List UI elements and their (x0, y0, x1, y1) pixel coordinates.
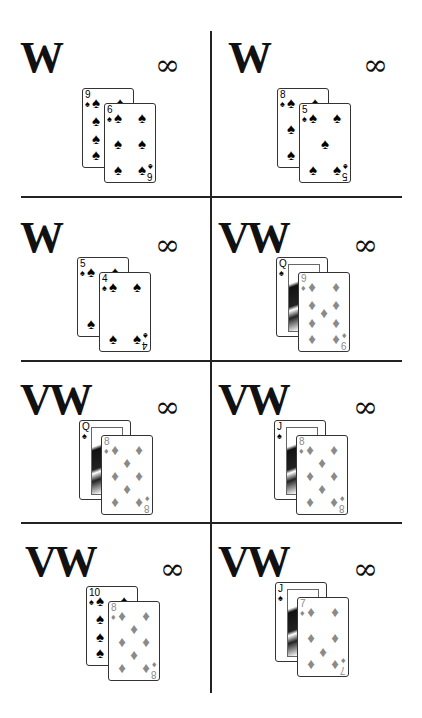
card-rank-bottom: 9 (341, 340, 347, 350)
card-rank-bottom: 4 (142, 340, 148, 350)
diamond-pip-icon: ♦ (320, 306, 328, 321)
vertical-divider (210, 31, 212, 693)
diamond-pip-icon: ♦ (142, 635, 150, 650)
spade-pip-icon: ♠ (138, 137, 146, 152)
infinity-icon: ∞ (353, 230, 378, 260)
infinity-icon: ∞ (353, 554, 378, 584)
diamond-pip-icon: ♦ (308, 316, 316, 331)
diamond-pip-icon: ♦ (332, 332, 340, 347)
hand-label: W (20, 36, 61, 80)
spade-icon: ♠ (148, 162, 153, 171)
spade-pip-icon: ♠ (287, 122, 295, 137)
hand-label: W (228, 36, 269, 80)
spade-icon: ♠ (278, 594, 283, 603)
hand-label: W (20, 216, 61, 260)
playing-card-front: ♦♦♦♦♦♦♦ 7 ♦ 7 ♦ (297, 597, 349, 677)
spade-pip-icon: ♠ (96, 646, 104, 661)
card-pair: ♠♠♠♠♠♠♠♠♠ 9 ♠ 9 ♠ ♠♠♠♠♠♠ 6 ♠ 6 ♠ (82, 88, 156, 183)
playing-card-front: ♦♦♦♦♦♦♦♦ 8 ♦ 8 ♦ (101, 435, 153, 515)
hand-label: VW (218, 378, 288, 422)
diamond-icon: ♦ (342, 331, 347, 340)
diamond-pip-icon: ♦ (308, 298, 316, 313)
diamond-pip-icon: ♦ (307, 631, 315, 646)
hand-label: VW (20, 378, 90, 422)
spade-pip-icon: ♠ (287, 148, 295, 163)
diamond-icon: ♦ (145, 494, 150, 503)
diamond-icon: ♦ (152, 660, 157, 669)
spade-icon: ♠ (143, 331, 148, 340)
diamond-pip-icon: ♦ (135, 495, 143, 510)
spade-icon: ♠ (107, 115, 112, 124)
spade-pip-icon: ♠ (114, 163, 122, 178)
spade-pip-icon: ♠ (333, 163, 341, 178)
hand-label: VW (25, 540, 95, 584)
card-rank-bottom: 6 (147, 171, 153, 181)
infinity-icon: ∞ (155, 392, 180, 422)
spade-icon: ♠ (89, 598, 94, 607)
diamond-pip-icon: ♦ (123, 482, 131, 497)
diamond-icon: ♦ (104, 447, 109, 456)
spade-pip-icon: ♠ (96, 630, 104, 645)
card-pair: Q ♠ Q ♠ ♦♦♦♦♦♦♦♦ 8 ♦ 8 ♦ (79, 420, 153, 515)
infinity-icon: ∞ (160, 554, 185, 584)
spade-pip-icon: ♠ (92, 132, 100, 147)
diamond-pip-icon: ♦ (332, 298, 340, 313)
diamond-pip-icon: ♦ (135, 469, 143, 484)
diamond-pip-icon: ♦ (306, 495, 314, 510)
diamond-pip-icon: ♦ (331, 605, 339, 620)
playing-card-front: ♠♠♠♠ 4 ♠ 4 ♠ (99, 272, 151, 352)
playing-card-front: ♠♠♠♠♠♠ 6 ♠ 6 ♠ (104, 103, 156, 183)
spade-pip-icon: ♠ (114, 137, 122, 152)
spade-icon: ♠ (302, 115, 307, 124)
diamond-pip-icon: ♦ (307, 657, 315, 672)
diamond-pip-icon: ♦ (111, 443, 119, 458)
spade-icon: ♠ (279, 269, 284, 278)
infinity-icon: ∞ (155, 230, 180, 260)
diamond-icon: ♦ (300, 609, 305, 618)
diamond-pip-icon: ♦ (123, 456, 131, 471)
horizontal-divider (21, 522, 402, 524)
diamond-pip-icon: ♦ (330, 443, 338, 458)
spade-icon: ♠ (82, 432, 87, 441)
playing-card-front: ♠♠♠♠♠ 5 ♠ 5 ♠ (299, 103, 351, 183)
card-rank-bottom: 8 (144, 503, 150, 513)
card-pair: ♠♠♠♠♠ 5 ♠ 5 ♠ ♠♠♠♠ 4 ♠ 4 ♠ (77, 257, 151, 352)
spade-pip-icon: ♠ (309, 111, 317, 126)
diamond-icon: ♦ (301, 284, 306, 293)
diamond-pip-icon: ♦ (130, 622, 138, 637)
diamond-pip-icon: ♦ (111, 469, 119, 484)
diamond-pip-icon: ♦ (142, 609, 150, 624)
spade-pip-icon: ♠ (92, 114, 100, 129)
diamond-pip-icon: ♦ (111, 495, 119, 510)
playing-card-front: ♦♦♦♦♦♦♦♦ 8 ♦ 8 ♦ (296, 435, 348, 515)
spade-pip-icon: ♠ (133, 280, 141, 295)
spade-pip-icon: ♠ (109, 332, 117, 347)
spade-pip-icon: ♠ (321, 137, 329, 152)
diamond-icon: ♦ (299, 447, 304, 456)
hand-label: VW (218, 216, 288, 260)
spade-pip-icon: ♠ (96, 612, 104, 627)
diamond-pip-icon: ♦ (130, 648, 138, 663)
diamond-pip-icon: ♦ (332, 280, 340, 295)
diamond-icon: ♦ (341, 656, 346, 665)
diamond-pip-icon: ♦ (330, 495, 338, 510)
spade-icon: ♠ (85, 100, 90, 109)
spade-pip-icon: ♠ (87, 317, 95, 332)
playing-card-front: ♦♦♦♦♦♦♦♦♦ 9 ♦ 9 ♦ (298, 272, 350, 352)
infinity-icon: ∞ (353, 392, 378, 422)
diamond-pip-icon: ♦ (118, 661, 126, 676)
spade-pip-icon: ♠ (287, 96, 295, 111)
diamond-pip-icon: ♦ (308, 332, 316, 347)
card-pair: Q ♠ Q ♠ ♦♦♦♦♦♦♦♦♦ 9 ♦ 9 ♦ (276, 257, 350, 352)
card-pair: J ♠ J ♠ ♦♦♦♦♦♦♦ 7 ♦ 7 ♦ (275, 582, 349, 677)
horizontal-divider (21, 196, 402, 198)
infinity-icon: ∞ (155, 50, 180, 80)
spade-pip-icon: ♠ (92, 96, 100, 111)
card-rank-bottom: 5 (342, 171, 348, 181)
spade-pip-icon: ♠ (138, 111, 146, 126)
card-pair: J ♠ J ♠ ♦♦♦♦♦♦♦♦ 8 ♦ 8 ♦ (274, 420, 348, 515)
horizontal-divider (21, 360, 402, 362)
diamond-icon: ♦ (340, 494, 345, 503)
spade-icon: ♠ (102, 284, 107, 293)
spade-pip-icon: ♠ (109, 280, 117, 295)
